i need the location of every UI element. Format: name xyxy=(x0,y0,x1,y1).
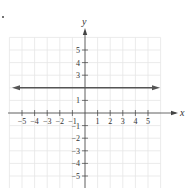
ticks: −5−4−3−2−112345−5−4−3−2−11345 xyxy=(18,46,150,181)
marker-dot xyxy=(2,16,4,18)
x-tick-label: 1 xyxy=(96,117,100,126)
x-tick-label: −4 xyxy=(30,117,39,126)
x-axis-arrow-icon xyxy=(171,111,178,115)
y-tick-label: 4 xyxy=(76,59,80,68)
x-tick-label: −5 xyxy=(18,117,27,126)
y-tick-label: −4 xyxy=(71,159,80,168)
x-tick-label: −2 xyxy=(56,117,65,126)
y-tick-label: 1 xyxy=(76,96,80,105)
x-tick-label: 5 xyxy=(146,117,150,126)
y-tick-label: −3 xyxy=(71,147,80,156)
y-tick-label: 5 xyxy=(76,46,80,55)
y-axis-arrow-icon xyxy=(83,28,87,35)
axes xyxy=(8,28,178,188)
x-tick-label: 3 xyxy=(121,117,125,126)
y-tick-label: −5 xyxy=(71,172,80,181)
x-tick-label: −3 xyxy=(43,117,52,126)
y-tick-label: −1 xyxy=(71,122,80,131)
y-tick-label: 3 xyxy=(76,71,80,80)
x-tick-label: 4 xyxy=(133,117,137,126)
y-axis-label: y xyxy=(81,16,87,27)
x-axis-label: x xyxy=(179,107,185,118)
y-tick-label: −2 xyxy=(71,134,80,143)
left-arrow-icon xyxy=(12,85,20,90)
x-tick-label: 2 xyxy=(108,117,112,126)
right-arrow-icon xyxy=(152,85,160,90)
coordinate-plane: −5−4−3−2−112345−5−4−3−2−11345 x y xyxy=(0,0,186,188)
